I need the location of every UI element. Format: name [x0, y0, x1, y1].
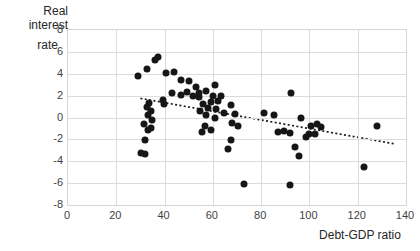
data-point [291, 144, 298, 151]
x-tick-label: 80 [245, 210, 275, 221]
gridline-horizontal [68, 183, 406, 184]
x-tick-label: 100 [293, 210, 323, 221]
y-tick-label: -4 [33, 155, 63, 166]
y-tick-label: 6 [33, 46, 63, 57]
x-tick-label: 120 [342, 210, 372, 221]
data-point [212, 105, 219, 112]
data-point [177, 77, 184, 84]
gridline-horizontal [68, 96, 406, 97]
data-point [205, 104, 212, 111]
data-point [297, 114, 304, 121]
gridline-horizontal [68, 74, 406, 75]
x-tick-label: 40 [149, 210, 179, 221]
data-point [149, 116, 156, 123]
data-point [155, 54, 162, 61]
data-point [203, 88, 210, 95]
gridline-vertical [358, 30, 359, 205]
scatter-chart: Real interest rate 86420-2-4-6-8 0204060… [0, 0, 420, 251]
data-point [142, 150, 149, 157]
gridline-horizontal [68, 52, 406, 53]
data-point [361, 163, 368, 170]
data-point [287, 129, 294, 136]
data-point [270, 112, 277, 119]
data-point [318, 124, 325, 131]
data-point [227, 102, 234, 109]
x-tick-label: 0 [52, 210, 82, 221]
data-point [212, 114, 219, 121]
y-tick-label: -2 [33, 133, 63, 144]
data-point [220, 110, 227, 117]
data-point [196, 90, 203, 97]
data-point [163, 69, 170, 76]
data-point [227, 137, 234, 144]
y-tick-label: -8 [33, 199, 63, 210]
data-point [142, 137, 149, 144]
y-tick-label: 4 [33, 68, 63, 79]
y-tick-label: 2 [33, 90, 63, 101]
data-point [232, 111, 239, 118]
data-point [198, 128, 205, 135]
data-point [214, 98, 221, 105]
data-point [288, 90, 295, 97]
y-tick-label: 8 [33, 24, 63, 35]
gridline-horizontal [68, 118, 406, 119]
data-point [148, 125, 155, 132]
data-point [225, 146, 232, 153]
data-point [207, 126, 214, 133]
data-point [296, 152, 303, 159]
data-point [170, 68, 177, 75]
data-point [169, 90, 176, 97]
data-point [203, 112, 210, 119]
data-point [212, 81, 219, 88]
x-tick-label: 20 [100, 210, 130, 221]
gridline-vertical [165, 30, 166, 205]
data-point [143, 66, 150, 73]
x-tick-label: 140 [390, 210, 420, 221]
y-tick-label: -6 [33, 177, 63, 188]
data-point [241, 181, 248, 188]
data-point [261, 110, 268, 117]
gridline-horizontal [68, 161, 406, 162]
x-tick-label: 60 [197, 210, 227, 221]
data-point [234, 123, 241, 130]
data-point [374, 123, 381, 130]
data-point [185, 78, 192, 85]
data-point [287, 182, 294, 189]
y-tick-label: 0 [33, 112, 63, 123]
data-point [303, 134, 310, 141]
x-axis-title: Debt-GDP ratio [300, 228, 420, 242]
data-point [311, 130, 318, 137]
plot-area [67, 29, 407, 206]
gridline-vertical [261, 30, 262, 205]
gridline-vertical [116, 30, 117, 205]
data-point [135, 72, 142, 79]
gridline-horizontal [68, 139, 406, 140]
gridline-vertical [309, 30, 310, 205]
data-point [161, 101, 168, 108]
